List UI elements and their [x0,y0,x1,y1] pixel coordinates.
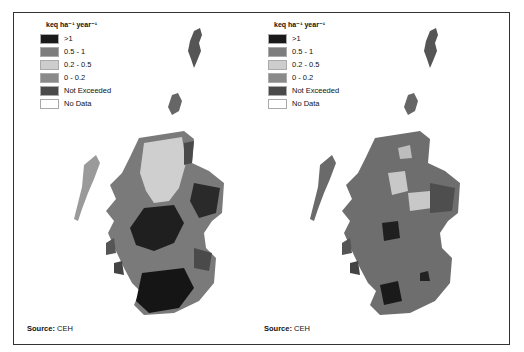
map-panel-right: keq ha⁻¹ year⁻¹ >1 0.5 - 1 0.2 - 0.5 0 -… [260,13,506,343]
scotland-map-right [280,23,500,323]
map-panel-left: keq ha⁻¹ year⁻¹ >1 0.5 - 1 0.2 - 0.5 0 -… [14,13,260,343]
scotland-map-left [44,23,264,323]
source-credit: Source: CEH [264,324,310,333]
source-label: Source: [264,324,292,333]
source-credit: Source: CEH [27,324,73,333]
source-value: CEH [292,324,310,333]
source-label: Source: [27,324,55,333]
source-value: CEH [55,324,73,333]
figure-frame: keq ha⁻¹ year⁻¹ >1 0.5 - 1 0.2 - 0.5 0 -… [13,12,510,345]
